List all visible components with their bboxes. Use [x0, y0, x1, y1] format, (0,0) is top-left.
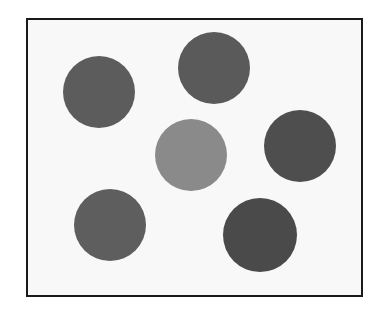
circle-center: [155, 119, 227, 191]
circle-top-center: [178, 32, 250, 104]
circle-bottom-right: [223, 198, 297, 272]
circle-right: [264, 110, 336, 182]
circle-top-left: [63, 56, 135, 128]
circle-bottom-left: [74, 189, 146, 261]
